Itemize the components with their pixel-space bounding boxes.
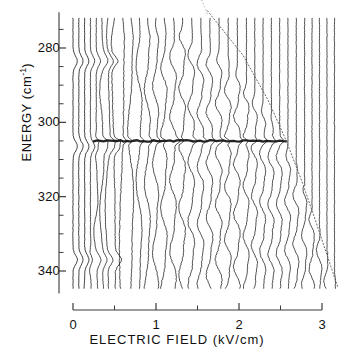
spectrum-trace (243, 18, 249, 288)
spectrum-trace (188, 18, 197, 288)
spectrum-trace (79, 18, 84, 288)
spectrum-trace (84, 18, 89, 288)
spectrum-trace (251, 18, 257, 288)
x-axis-tick-label: 1 (146, 318, 166, 331)
spectrum-trace (224, 18, 231, 288)
x-axis-tick-label: 2 (229, 318, 249, 331)
spectrum-trace (197, 18, 207, 288)
plot-canvas (0, 0, 354, 356)
spectrum-trace (152, 18, 160, 288)
spectrum-trace (127, 18, 133, 288)
spectrum-trace (301, 18, 307, 288)
spectrum-trace (215, 18, 223, 288)
spectrum-trace (284, 18, 290, 288)
spectrum-trace (144, 18, 152, 288)
spectrum-trace (73, 18, 78, 288)
spectrum-trace (206, 18, 215, 288)
classical-ionization-limit-line (207, 11, 337, 288)
spectrum-trace (334, 18, 335, 288)
x-axis-tick-labels: 0123 (0, 310, 354, 330)
spectrum-trace (100, 18, 108, 288)
spectrum-trace (105, 18, 115, 288)
spectrum-trace (293, 18, 299, 288)
stark-map-figure: ENERGY (cm-1) 280300320340 0123 ELECTRIC… (0, 0, 354, 356)
resonance-band-line (94, 140, 287, 141)
spectrum-trace (233, 18, 242, 288)
spectrum-trace (119, 18, 126, 288)
spectrum-trace (136, 18, 144, 288)
spectrum-trace (90, 18, 95, 288)
spectrum-trace (309, 18, 315, 288)
clipped-top-limit-segment (202, 0, 208, 14)
spectrum-trace (259, 18, 267, 288)
spectrum-trace (94, 18, 101, 288)
spectrum-trace (268, 18, 276, 288)
spectrum-trace (160, 18, 167, 288)
spectrum-trace (169, 18, 180, 288)
x-axis-tick-label: 3 (312, 318, 332, 331)
x-axis-title: ELECTRIC FIELD (kV/cm) (0, 332, 354, 347)
x-axis-tick-label: 0 (63, 318, 83, 331)
spectrum-trace (179, 18, 186, 288)
spectrum-trace (316, 18, 322, 288)
spectrum-trace (276, 18, 284, 288)
